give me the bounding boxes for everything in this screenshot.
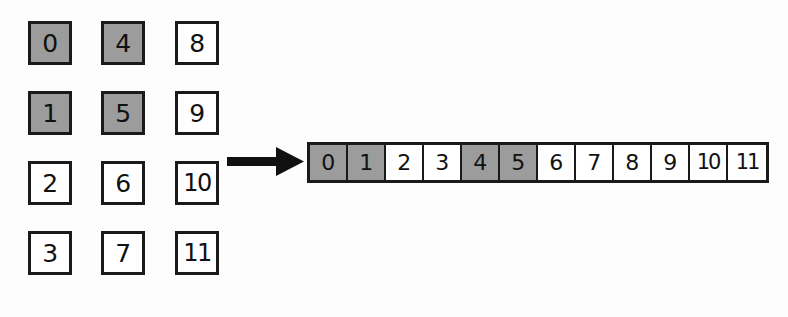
array-cell: 3 [424, 145, 462, 180]
array-cell-label: 11 [736, 152, 759, 173]
grid-cell: 1 [28, 91, 72, 135]
grid-cell-label: 6 [115, 171, 130, 196]
grid-cell: 3 [28, 231, 72, 275]
grid-cell: 5 [101, 91, 145, 135]
array-cell: 11 [728, 145, 766, 180]
grid-cell: 4 [101, 21, 145, 65]
array-cell-label: 3 [435, 152, 449, 174]
array-cell: 6 [538, 145, 576, 180]
array-cell: 10 [690, 145, 728, 180]
grid-cell-label: 11 [183, 241, 211, 265]
array-cell-label: 6 [549, 152, 563, 174]
grid-cell-label: 5 [115, 101, 130, 126]
array-flattening-diagram: 04815926103711 01234567891011 [0, 0, 788, 317]
array-cell-label: 0 [321, 152, 335, 174]
grid-cell-label: 9 [189, 101, 204, 126]
array-cell: 0 [310, 145, 348, 180]
array-cell-label: 10 [697, 152, 720, 173]
array-cell: 8 [614, 145, 652, 180]
flattened-1d-array: 01234567891011 [307, 142, 769, 183]
grid-cell-label: 10 [183, 171, 211, 195]
array-cell: 5 [500, 145, 538, 180]
right-arrow-icon [226, 145, 308, 179]
array-cell-label: 1 [359, 152, 373, 174]
grid-cell: 6 [101, 161, 145, 205]
grid-cell-label: 4 [115, 31, 130, 56]
array-cell-label: 8 [625, 152, 639, 174]
grid-cell-label: 2 [42, 171, 57, 196]
array-cell-label: 2 [397, 152, 411, 174]
grid-cell: 0 [28, 21, 72, 65]
grid-cell: 7 [101, 231, 145, 275]
array-cell: 2 [386, 145, 424, 180]
grid-cell-label: 8 [189, 31, 204, 56]
array-cell: 9 [652, 145, 690, 180]
grid-cell: 10 [175, 161, 219, 205]
grid-cell-label: 7 [115, 241, 130, 266]
grid-cell: 2 [28, 161, 72, 205]
grid-cell-label: 0 [42, 31, 57, 56]
array-cell-label: 9 [663, 152, 677, 174]
array-cell: 1 [348, 145, 386, 180]
source-2d-grid: 04815926103711 [0, 0, 240, 317]
array-cell: 4 [462, 145, 500, 180]
array-cell-label: 7 [587, 152, 601, 174]
array-cell-label: 5 [511, 152, 525, 174]
grid-cell-label: 1 [42, 101, 57, 126]
array-cell: 7 [576, 145, 614, 180]
grid-cell: 8 [175, 21, 219, 65]
array-cell-label: 4 [473, 152, 487, 174]
grid-cell-label: 3 [42, 241, 57, 266]
grid-cell: 11 [175, 231, 219, 275]
grid-cell: 9 [175, 91, 219, 135]
